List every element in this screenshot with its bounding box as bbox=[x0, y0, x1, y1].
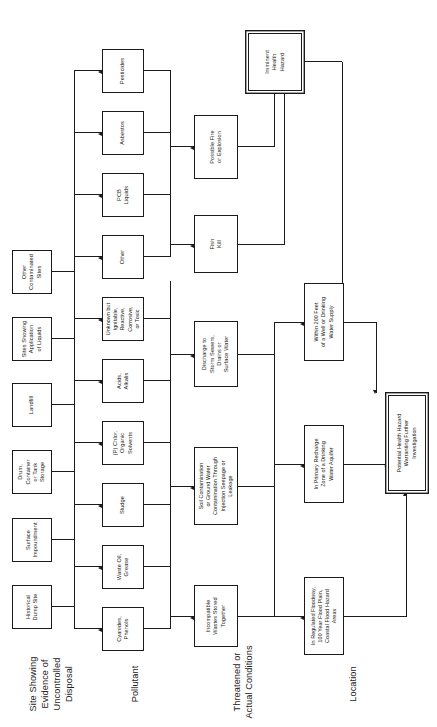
pollutant-out-1 bbox=[144, 628, 170, 629]
location-box-floodway[interactable]: In Regulated Floodway, 100 Year Flood Pl… bbox=[304, 577, 344, 655]
row-label-location: Location bbox=[348, 647, 360, 721]
pollutant-box-pcb[interactable]: PCB Liquids bbox=[102, 173, 144, 217]
pollutant-box-waste-oil[interactable]: Waste Oil, Grease bbox=[102, 545, 144, 589]
pollutant-box-solvents[interactable]: (P) Chlor. Organic Solvents bbox=[102, 421, 144, 465]
fish-to-imminent-h bbox=[284, 89, 285, 245]
condition-bus-left bbox=[170, 281, 171, 629]
flowchart-canvas: Site Showing Evidence of Uncontrolled Di… bbox=[0, 0, 437, 727]
cond-to-location-bus bbox=[274, 355, 275, 617]
site-drop-4 bbox=[52, 404, 74, 405]
site-box-liquid-application[interactable]: Sites Showing Application of Liquids bbox=[12, 317, 52, 361]
site-drop-3 bbox=[52, 471, 74, 472]
cond-discharge-down bbox=[238, 354, 274, 355]
row-label-condition: Threatened or Actual Conditions bbox=[232, 641, 256, 723]
site-bus-extension bbox=[74, 70, 75, 257]
row-label-site: Site Showing Evidence of Uncontrolled Di… bbox=[28, 647, 76, 721]
row-label-pollutant: Pollutant bbox=[130, 647, 142, 721]
condition-box-fish-kill[interactable]: Fish Kill bbox=[194, 215, 238, 273]
arrow-into-potential-from-well bbox=[373, 390, 377, 394]
condition-box-discharge[interactable]: Discharge to Storm Sewers, Drains or Sur… bbox=[194, 321, 238, 387]
pollutant-out-6 bbox=[144, 318, 170, 319]
pollutant-out-2 bbox=[144, 566, 170, 567]
pollutant-box-pesticides[interactable]: Pesticides bbox=[102, 49, 144, 93]
cond-incompatible-down bbox=[238, 616, 274, 617]
site-drop-5 bbox=[52, 338, 74, 339]
recharge-out-v bbox=[344, 464, 386, 465]
site-box-historical-dump[interactable]: Historical Dump Site bbox=[12, 585, 52, 629]
pollutant-out-4 bbox=[144, 442, 170, 443]
pollutant-out-7 bbox=[144, 256, 170, 257]
site-drop-2 bbox=[52, 539, 74, 540]
well-out-h bbox=[376, 322, 377, 393]
fire-to-imminent-v bbox=[238, 146, 274, 147]
site-drop-6 bbox=[52, 271, 74, 272]
site-drop-1 bbox=[52, 606, 74, 607]
condition-box-soil-groundwater[interactable]: Soil Contamination or Ground Water Conta… bbox=[194, 447, 238, 525]
pollutant-out-8 bbox=[144, 194, 170, 195]
arrow-into-potential-from-floodway bbox=[403, 492, 407, 496]
pollutant-box-acids[interactable]: Acids, Alkalis bbox=[102, 359, 144, 403]
imminent-bottom-feed-h bbox=[342, 62, 343, 283]
pollutant-out-9 bbox=[144, 132, 170, 133]
site-bus bbox=[74, 249, 75, 629]
site-box-surface-impoundment[interactable]: Surface Impoundment bbox=[12, 518, 52, 562]
pollutant-box-asbestos[interactable]: Asbestos bbox=[102, 111, 144, 155]
location-box-well-200-feet[interactable]: Within 200 Feet of a Well or Drinking Wa… bbox=[304, 283, 344, 361]
site-box-other-contaminated[interactable]: Other Contaminated Sites bbox=[12, 250, 52, 294]
location-box-recharge-zone[interactable]: In Primary Recharge Zone of a Drinking W… bbox=[304, 425, 344, 503]
pollutant-box-unknown[interactable]: Unknown but Ignitable, Reactive, Corrosi… bbox=[102, 297, 144, 341]
site-box-landfill[interactable]: Landfill bbox=[12, 383, 52, 427]
pollutant-box-cyanides[interactable]: Cyanides, Phenols bbox=[102, 607, 144, 651]
condition-bus-right bbox=[170, 70, 171, 257]
pollutant-box-other[interactable]: Other bbox=[102, 235, 144, 279]
pollutant-out-10 bbox=[144, 70, 170, 71]
pollutant-out-5 bbox=[144, 380, 170, 381]
pollutant-box-sludge[interactable]: Sludge bbox=[102, 483, 144, 527]
imminent-bottom-feed-v bbox=[302, 61, 342, 62]
floodway-out-v bbox=[344, 616, 406, 617]
condition-box-incompatible[interactable]: Incompatible Wastes Stored Together bbox=[194, 585, 238, 647]
rotated-figure-stage: Site Showing Evidence of Uncontrolled Di… bbox=[0, 0, 437, 727]
floodway-out-h bbox=[406, 493, 407, 617]
condition-box-fire-explosion[interactable]: Possible Fire or Explosion bbox=[194, 115, 238, 179]
outcome-box-imminent-health-hazard[interactable]: Imminent Health Hazard bbox=[248, 33, 302, 91]
cond-soil-down bbox=[238, 486, 274, 487]
outcome-box-potential-health-hazard[interactable]: Potential Health Hazard Warranting Furth… bbox=[388, 395, 426, 491]
well-out-v bbox=[344, 322, 376, 323]
fire-to-imminent-h bbox=[274, 89, 275, 147]
pollutant-out-3 bbox=[144, 504, 170, 505]
fish-to-imminent-v bbox=[238, 244, 284, 245]
site-box-drum-tank-storage[interactable]: Drum, Container or Tank Storage bbox=[12, 450, 52, 494]
cond-to-well-bus bbox=[274, 322, 275, 355]
